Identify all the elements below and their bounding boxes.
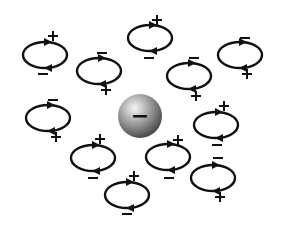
dipole-molecule [218,38,262,79]
arrow-right-icon [215,108,223,116]
arrow-left-icon [167,166,175,174]
ion-charge-label: − [131,103,149,128]
plus-sign-icon [48,31,58,41]
dipole-molecule [23,31,67,74]
arrow-right-icon [44,38,52,46]
plus-sign-icon [101,85,111,95]
arrow-right-icon [167,140,175,148]
dipole-loop [26,105,70,131]
dipole-molecule [146,135,190,178]
dipole-molecule [128,15,172,58]
arrow-left-icon [239,64,247,72]
dipole-loop [218,42,262,68]
arrow-right-icon [47,101,55,109]
plus-sign-icon [191,91,201,101]
arrow-left-icon [212,187,220,195]
arrow-right-icon [188,59,196,67]
dipole-molecule [167,58,211,101]
dipole-loop [77,58,121,84]
dipole-loop [71,145,115,171]
arrow-right-icon [212,161,220,169]
plus-sign-icon [215,192,225,202]
arrow-left-icon [149,47,157,55]
plus-sign-icon [219,101,229,111]
arrow-right-icon [239,38,247,46]
arrow-left-icon [215,134,223,142]
arrow-left-icon [92,167,100,175]
dipole-loop [146,144,190,170]
diagram-canvas: − [0,0,282,230]
plus-sign-icon [129,171,139,181]
arrow-right-icon [98,54,106,62]
arrow-right-icon [149,21,157,29]
dipole-loop [128,25,172,51]
dipole-loop [194,112,238,138]
dipole-molecule [191,158,235,202]
dipole-molecule [71,134,115,178]
dipole-loop [167,63,211,89]
arrow-right-icon [126,178,134,186]
central-negative-ion: − [118,94,162,138]
arrow-left-icon [47,127,55,135]
plus-sign-icon [242,69,252,79]
arrow-left-icon [98,80,106,88]
arrow-right-icon [92,141,100,149]
arrow-left-icon [44,64,52,72]
dipole-molecule [194,101,238,145]
dipole-molecule [77,53,121,95]
arrow-left-icon [188,85,196,93]
dipole-loop [105,182,149,208]
plus-sign-icon [95,134,105,144]
dipole-loop [23,42,67,68]
dipole-molecule [26,100,70,142]
arrow-left-icon [126,204,134,212]
ion-dipole-diagram: − [0,0,282,230]
dipole-loop [191,165,235,191]
dipole-molecule [105,171,149,214]
